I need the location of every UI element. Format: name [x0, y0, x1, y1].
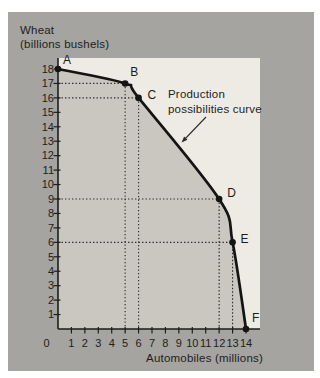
x-axis-title: Automobiles (millions): [146, 352, 263, 364]
point-label-B: B: [130, 65, 138, 79]
annotation-line-1: Production: [168, 88, 225, 100]
x-tick-label-4: 4: [109, 337, 115, 349]
x-tick-label-8: 8: [162, 337, 168, 349]
x-tick-label-6: 6: [136, 337, 142, 349]
y-tick-label-4: 4: [48, 265, 54, 277]
point-dot-E: [229, 239, 236, 246]
y-tick-label-17: 17: [42, 77, 54, 89]
y-tick-label-11: 11: [43, 164, 54, 176]
y-tick-label-13: 13: [42, 135, 54, 147]
y-tick-label-10: 10: [42, 178, 54, 190]
x-tick-label-10: 10: [186, 337, 198, 349]
x-tick-label-13: 13: [226, 337, 238, 349]
point-label-D: D: [227, 186, 236, 200]
y-tick-label-8: 8: [48, 207, 54, 219]
y-tick-label-6: 6: [48, 236, 54, 248]
y-tick-label-7: 7: [48, 222, 54, 234]
x-tick-label-12: 12: [213, 337, 225, 349]
y-tick-label-16: 16: [42, 92, 54, 104]
x-tick-label-9: 9: [176, 337, 182, 349]
point-label-E: E: [241, 232, 249, 246]
point-dot-D: [216, 196, 223, 203]
y-tick-label-15: 15: [42, 106, 54, 118]
x-tick-label-5: 5: [122, 337, 128, 349]
y-tick-label-12: 12: [42, 149, 54, 161]
y-tick-label-9: 9: [48, 193, 54, 205]
point-dot-B: [122, 80, 129, 87]
x-tick-label-11: 11: [200, 337, 211, 349]
point-label-A: A: [63, 53, 71, 67]
y-tick-label-5: 5: [48, 251, 54, 263]
x-tick-label-0: 0: [43, 337, 49, 349]
x-tick-label-7: 7: [149, 337, 155, 349]
y-tick-label-2: 2: [48, 294, 54, 306]
point-label-C: C: [148, 88, 157, 102]
x-tick-label-2: 2: [82, 337, 88, 349]
y-tick-label-18: 18: [42, 63, 54, 75]
point-dot-C: [135, 95, 142, 102]
chart-svg: 1234567891011121314151617180123456789101…: [0, 0, 320, 378]
point-dot-A: [55, 66, 62, 73]
y-tick-label-3: 3: [48, 279, 54, 291]
x-tick-label-1: 1: [68, 337, 74, 349]
point-label-F: F: [252, 311, 259, 325]
y-tick-label-14: 14: [42, 121, 54, 133]
figure-page: Wheat (billions bushels) 123456789101112…: [0, 0, 320, 378]
annotation-line-2: possibilities curve: [168, 103, 262, 115]
point-dot-F: [243, 326, 250, 333]
y-tick-label-1: 1: [48, 308, 54, 320]
x-tick-label-14: 14: [240, 337, 252, 349]
x-tick-label-3: 3: [95, 337, 101, 349]
